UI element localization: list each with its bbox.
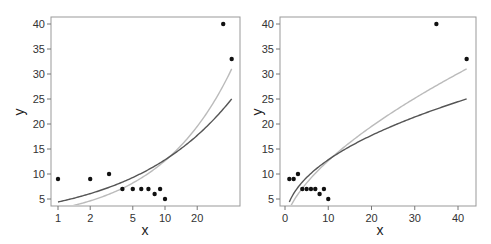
- fit-light-curve: [291, 69, 467, 206]
- y-tick-label: 10: [262, 168, 274, 180]
- x-tick-label: 2: [87, 212, 93, 224]
- data-point: [146, 187, 150, 191]
- x-tick-label: 20: [191, 212, 203, 224]
- data-point: [120, 187, 124, 191]
- data-point: [464, 57, 468, 61]
- data-point: [313, 187, 317, 191]
- data-point: [152, 192, 156, 196]
- x-tick-label: 1: [55, 212, 61, 224]
- data-point: [107, 172, 111, 176]
- y-tick-label: 20: [262, 118, 274, 130]
- right-panel-linear-scale: 510152025303540010203040xy: [249, 17, 476, 238]
- data-point: [434, 22, 438, 26]
- x-tick-label: 5: [130, 212, 136, 224]
- y-tick-label: 40: [33, 18, 45, 30]
- x-axis-title: x: [377, 222, 384, 238]
- x-tick-label: 0: [282, 212, 288, 224]
- y-tick-label: 25: [262, 93, 274, 105]
- x-axis-title: x: [142, 222, 149, 238]
- x-tick-label: 30: [409, 212, 421, 224]
- y-tick-label: 20: [33, 118, 45, 130]
- plot-frame: [51, 17, 240, 206]
- data-point: [163, 197, 167, 201]
- data-point: [322, 187, 326, 191]
- data-point: [326, 197, 330, 201]
- data-point: [139, 187, 143, 191]
- y-tick-label: 35: [262, 43, 274, 55]
- chart-figure: 5101520253035401251020xy 510152025303540…: [0, 0, 491, 244]
- x-tick-label: 40: [452, 212, 464, 224]
- y-tick-label: 25: [33, 93, 45, 105]
- y-tick-label: 15: [33, 143, 45, 155]
- data-point: [304, 187, 308, 191]
- y-tick-label: 5: [268, 193, 274, 205]
- y-tick-label: 40: [262, 18, 274, 30]
- data-point: [229, 57, 233, 61]
- data-point: [309, 187, 313, 191]
- data-point: [56, 177, 60, 181]
- fit-dark-curve: [289, 99, 466, 202]
- left-panel-log-scale: 5101520253035401251020xy: [11, 17, 240, 238]
- y-axis-title: y: [249, 109, 265, 116]
- y-tick-label: 5: [39, 193, 45, 205]
- y-tick-label: 30: [33, 68, 45, 80]
- data-point: [296, 172, 300, 176]
- fit-light-curve: [58, 69, 232, 209]
- x-tick-label: 10: [159, 212, 171, 224]
- data-point: [291, 177, 295, 181]
- data-point: [158, 187, 162, 191]
- data-point: [88, 177, 92, 181]
- y-tick-label: 10: [33, 168, 45, 180]
- y-axis-title: y: [11, 109, 27, 116]
- y-tick-label: 35: [33, 43, 45, 55]
- plot-frame: [280, 17, 476, 206]
- data-point: [221, 22, 225, 26]
- data-point: [131, 187, 135, 191]
- data-point: [317, 192, 321, 196]
- y-tick-label: 30: [262, 68, 274, 80]
- data-point: [300, 187, 304, 191]
- x-tick-label: 10: [322, 212, 334, 224]
- y-tick-label: 15: [262, 143, 274, 155]
- data-point: [287, 177, 291, 181]
